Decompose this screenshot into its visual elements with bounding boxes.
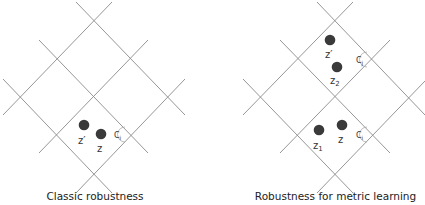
right-points: z′ z2 Cj z1 z Ci [313,35,367,153]
caption-left: Classic robustness [40,190,150,202]
label-z2: z2 [330,75,340,88]
label-ci: Ci [114,131,122,141]
left-grid [3,2,185,193]
point-z-prime [79,120,90,131]
label-z-prime: z′ [78,135,86,146]
point-z-prime [325,35,336,46]
point-z2 [332,62,343,73]
diagram-canvas: z′ z Ci z′ z2 Cj z1 z Ci [0,0,425,205]
label-z: z [97,143,102,154]
point-z [337,120,348,131]
caption-right: Robustness for metric learning [248,190,423,202]
point-z [96,129,107,140]
label-z: z [338,134,343,145]
point-z1 [314,125,325,136]
right-grid [243,2,425,193]
label-ci: Ci [356,131,364,141]
label-cj: Cj [356,56,364,67]
label-z1: z1 [313,140,323,153]
label-z-prime: z′ [325,49,333,60]
